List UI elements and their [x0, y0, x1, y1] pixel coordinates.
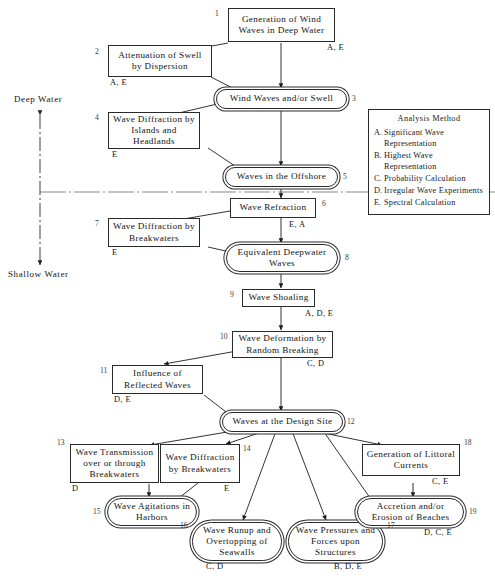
legend-text-d: Irregular Wave Experiments: [384, 186, 484, 197]
node-15-number: 15: [93, 507, 101, 516]
legend-panel: Analysis Method A. Significant Wave Repr…: [368, 109, 490, 215]
legend-title: Analysis Method: [374, 114, 484, 125]
node-3-label: Wind Waves and/or Swell: [227, 93, 336, 104]
legend-key-a: A.: [374, 128, 384, 150]
node-19[interactable]: Accretion and/or Erosion of Beaches: [357, 498, 464, 526]
node-2-label: Attenuation of Swell by Dispersion: [109, 50, 211, 72]
node-8-number: 8: [345, 253, 349, 262]
node-4-number: 4: [95, 113, 99, 122]
node-14-number: 14: [243, 444, 251, 453]
node-6-methods: E, A: [289, 220, 306, 229]
node-4-label: Wave Diffraction by Islands and Headland…: [109, 114, 199, 148]
node-6[interactable]: Wave Refraction: [230, 198, 316, 218]
node-10-label: Wave Deformation by Random Breaking: [233, 333, 332, 355]
legend-text-e: Spectral Calculation: [384, 198, 484, 209]
node-9-label: Wave Shoaling: [245, 292, 311, 303]
node-15-label: Wave Agitations in Harbors: [108, 501, 196, 523]
node-13-number: 13: [57, 438, 65, 447]
node-4[interactable]: Wave Diffraction by Islands and Headland…: [108, 112, 200, 149]
node-7-methods: E: [112, 248, 118, 257]
node-5-label: Waves in the Offshore: [234, 171, 329, 182]
flowchart-canvas: Deep Water Shallow Water Generation of W…: [0, 0, 495, 583]
legend-text-a: Significant Wave Representation: [384, 128, 484, 150]
node-17-number: 17: [387, 521, 395, 530]
node-1-number: 1: [215, 9, 219, 18]
legend-item-b: B. Highest Wave Representation: [374, 151, 484, 173]
node-1[interactable]: Generation of Wind Waves in Deep Water: [228, 8, 335, 42]
node-18-methods: C, E: [432, 477, 449, 486]
node-1-label: Generation of Wind Waves in Deep Water: [229, 14, 334, 36]
node-9-number: 9: [230, 290, 234, 299]
legend-key-d: D.: [374, 186, 384, 197]
node-11-methods: D, E: [114, 395, 131, 404]
node-5[interactable]: Waves in the Offshore: [225, 167, 338, 187]
node-18-number: 18: [464, 438, 472, 447]
node-14-methods: E: [224, 484, 230, 493]
node-11-number: 11: [100, 366, 107, 375]
node-8-label: Equivalent Deepwater Waves: [227, 247, 337, 269]
node-17-label: Wave Pressures and Forces upon Structure…: [289, 525, 382, 559]
node-16[interactable]: Wave Runup and Overtopping of Seawalls: [192, 522, 282, 561]
node-10-number: 10: [220, 332, 228, 341]
legend-text-c: Probability Calculation: [384, 174, 484, 185]
shallow-water-label: Shallow Water: [8, 269, 69, 279]
node-10[interactable]: Wave Deformation by Random Breaking: [232, 331, 333, 358]
legend-item-c: C. Probability Calculation: [374, 174, 484, 185]
node-11[interactable]: Influence of Reflected Waves: [112, 365, 203, 394]
node-12-number: 12: [347, 417, 355, 426]
legend-text-b: Highest Wave Representation: [384, 151, 484, 173]
node-11-label: Influence of Reflected Waves: [113, 368, 202, 390]
node-17[interactable]: Wave Pressures and Forces upon Structure…: [288, 522, 383, 561]
node-2-number: 2: [95, 47, 99, 56]
node-7-number: 7: [95, 219, 99, 228]
node-13-methods: D: [72, 484, 78, 493]
node-18-label: Generation of Littoral Currents: [363, 449, 459, 471]
legend-key-e: E.: [374, 198, 384, 209]
node-16-number: 16: [180, 521, 188, 530]
node-19-label: Accretion and/or Erosion of Beaches: [358, 501, 463, 523]
node-9[interactable]: Wave Shoaling: [242, 289, 315, 307]
node-17-methods: B, D, E: [334, 562, 362, 571]
node-6-label: Wave Refraction: [236, 202, 309, 213]
node-2[interactable]: Attenuation of Swell by Dispersion: [108, 45, 212, 77]
node-14[interactable]: Wave Diffraction by Breakwaters: [160, 444, 240, 483]
node-6-number: 6: [322, 199, 326, 208]
legend-key-b: B.: [374, 151, 384, 173]
deep-water-label: Deep Water: [14, 94, 62, 104]
legend-item-d: D. Irregular Wave Experiments: [374, 186, 484, 197]
node-2-methods: A, E: [110, 78, 127, 87]
node-3[interactable]: Wind Waves and/or Swell: [216, 89, 347, 109]
node-12[interactable]: Waves at the Design Site: [222, 412, 343, 432]
node-9-methods: A, D, E: [305, 309, 333, 318]
node-13[interactable]: Wave Transmission over or through Breakw…: [70, 444, 159, 483]
node-1-methods: A, E: [327, 43, 344, 52]
node-7-label: Wave Diffraction by Breakwaters: [109, 221, 199, 243]
node-14-label: Wave Diffraction by Breakwaters: [161, 452, 239, 474]
node-3-number: 3: [352, 94, 356, 103]
legend-item-e: E. Spectral Calculation: [374, 198, 484, 209]
node-13-label: Wave Transmission over or through Breakw…: [71, 447, 158, 481]
node-16-label: Wave Runup and Overtopping of Seawalls: [193, 525, 281, 559]
node-18[interactable]: Generation of Littoral Currents: [362, 444, 460, 476]
node-16-methods: C, D: [206, 562, 223, 571]
node-19-methods: D, C, E: [424, 528, 452, 537]
node-19-number: 19: [469, 507, 477, 516]
node-4-methods: E: [112, 150, 118, 159]
legend-key-c: C.: [374, 174, 384, 185]
node-5-number: 5: [343, 172, 347, 181]
node-7[interactable]: Wave Diffraction by Breakwaters: [108, 218, 200, 247]
node-12-label: Waves at the Design Site: [229, 416, 335, 427]
node-10-methods: C, D: [307, 359, 324, 368]
node-8[interactable]: Equivalent Deepwater Waves: [226, 244, 338, 272]
legend-item-a: A. Significant Wave Representation: [374, 128, 484, 150]
